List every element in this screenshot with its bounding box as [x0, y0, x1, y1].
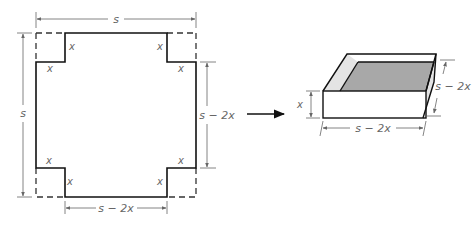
label-left-s: s [20, 107, 26, 120]
label-x: x [46, 63, 53, 74]
label-x: x [45, 155, 52, 166]
label-x: x [156, 176, 163, 187]
label-x: x [177, 63, 184, 74]
flat-sheet: s s s − 2x s − 2x x x x x x x x [17, 12, 235, 215]
label-x: x [156, 41, 163, 52]
cut-and-fold-box-diagram: s s s − 2x s − 2x x x x x x x x [0, 0, 476, 226]
label-box-width: s − 2x [355, 122, 391, 135]
label-x: x [177, 155, 184, 166]
dimension-right-s-minus-2x: s − 2x [199, 63, 235, 167]
label-bottom-s-2x: s − 2x [98, 202, 134, 215]
dimension-top-s: s [37, 13, 195, 26]
label-top-s: s [113, 13, 119, 26]
label-x: x [68, 41, 75, 52]
cut-outline [36, 33, 196, 197]
dimension-left-s: s [20, 34, 26, 196]
open-box: x s − 2x s − 2x [296, 54, 471, 136]
cut-corner-outlines [36, 33, 196, 197]
label-box-height: x [296, 99, 303, 110]
dimension-bottom-s-minus-2x: s − 2x [66, 202, 166, 215]
corner-labels: x x x x x x x x [45, 41, 184, 187]
dimension-box-height-x: x [296, 91, 320, 118]
label-right-s-2x: s − 2x [199, 109, 235, 122]
dimension-box-width: s − 2x [320, 121, 426, 136]
label-box-depth: s − 2x [435, 80, 471, 93]
label-x: x [66, 176, 73, 187]
